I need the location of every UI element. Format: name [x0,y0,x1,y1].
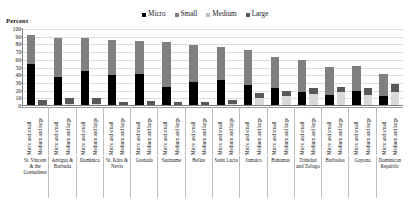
legend-item-small: Small [175,11,198,18]
bar-segment-small [162,42,171,87]
bar-medium-and-large[interactable] [337,87,346,106]
bar-group [50,29,77,106]
chart-legend: Micro Small Medium Large [142,11,268,18]
bar-label-cell: Medium and large [91,107,100,155]
bar-medium-and-large[interactable] [364,88,373,106]
bar-group [240,29,267,106]
bar-label-group: Micro and smallMedium and large [349,107,376,155]
bar-label-micro-and-small: Micro and small [191,108,196,155]
bar-medium-and-large[interactable] [309,88,318,106]
bar-label-group: Micro and smallMedium and large [158,107,185,155]
bar-label-micro-and-small: Micro and small [245,108,250,155]
bar-segment-micro [189,82,198,106]
bar-group [132,29,159,106]
bar-label-medium-and-large: Medium and large [175,108,180,155]
bar-label-cell: Micro and small [52,107,61,155]
bar-segment-small [54,38,63,77]
bar-medium-and-large[interactable] [391,84,400,106]
bar-label-micro-and-small: Micro and small [81,108,86,155]
bar-label-medium-and-large: Medium and large [202,108,207,155]
bar-segment-micro [217,80,226,106]
bar-micro-and-small[interactable] [244,50,253,106]
bar-label-cell: Micro and small [25,107,34,155]
bar-label-cell: Micro and small [325,107,334,155]
legend-label-medium: Medium [212,11,236,18]
bar-label-micro-and-small: Micro and small [218,108,223,155]
bar-micro-and-small[interactable] [81,38,90,106]
bar-label-cell: Medium and large [200,107,209,155]
bar-label-medium-and-large: Medium and large [66,108,71,155]
bar-micro-and-small[interactable] [108,40,117,106]
bar-micro-and-small[interactable] [27,35,36,106]
bar-label-cell: Micro and small [189,107,198,155]
bar-label-micro-and-small: Micro and small [382,108,387,155]
y-tick-label: 30 [15,80,21,86]
bar-label-medium-and-large: Medium and large [257,108,262,155]
legend-swatch-small [175,13,179,17]
bar-group [77,29,104,106]
country-label: Belize [186,156,213,198]
bar-micro-and-small[interactable] [352,66,361,106]
bar-label-band: Micro and smallMedium and largeMicro and… [22,107,403,155]
bar-segment-micro [135,74,144,106]
bar-label-micro-and-small: Micro and small [354,108,359,155]
country-label: St. Vincent & the Grenadines [22,156,49,198]
bar-micro-and-small[interactable] [162,42,171,106]
bar-segment-small [271,57,280,88]
bar-micro-and-small[interactable] [325,67,334,106]
bar-micro-and-small[interactable] [54,38,63,106]
bar-label-medium-and-large: Medium and large [284,108,289,155]
bar-micro-and-small[interactable] [135,41,144,106]
country-label: Guyana [349,156,376,198]
bar-label-cell: Micro and small [353,107,362,155]
bar-segment-medium [391,84,400,92]
bar-group [23,29,50,106]
bar-label-micro-and-small: Micro and small [27,108,32,155]
country-label: Trinidad and Tobago [295,156,322,198]
bar-label-cell: Micro and small [107,107,116,155]
legend-label-micro: Micro [148,11,166,18]
country-label: Bahamas [268,156,295,198]
bar-micro-and-small[interactable] [379,74,388,106]
bar-segment-small [189,45,198,82]
bar-label-medium-and-large: Medium and large [366,108,371,155]
bar-micro-and-small[interactable] [298,60,307,106]
y-axis-title: Percent [6,17,28,24]
bar-micro-and-small[interactable] [271,57,280,106]
bar-label-cell: Micro and small [380,107,389,155]
y-tick-label: 60 [15,57,21,63]
bar-group [104,29,131,106]
bar-group [267,29,294,106]
bar-label-cell: Medium and large [309,107,318,155]
bar-label-cell: Micro and small [243,107,252,155]
y-tick-label: 100 [13,26,21,32]
bar-label-cell: Medium and large [64,107,73,155]
bar-segment-large [391,92,400,106]
bar-label-cell: Medium and large [391,107,400,155]
bar-label-medium-and-large: Medium and large [311,108,316,155]
bar-label-group: Micro and smallMedium and large [213,107,240,155]
country-label: Jamaica [240,156,267,198]
y-tick-label: 50 [15,65,21,71]
legend-item-micro: Micro [142,11,166,18]
bar-label-cell: Micro and small [134,107,143,155]
bar-label-medium-and-large: Medium and large [120,108,125,155]
bar-label-group: Micro and smallMedium and large [186,107,213,155]
bar-label-medium-and-large: Medium and large [93,108,98,155]
bar-label-micro-and-small: Micro and small [163,108,168,155]
bar-group [159,29,186,106]
bar-group [376,29,403,106]
bar-segment-small [217,47,226,80]
bar-label-micro-and-small: Micro and small [54,108,59,155]
bar-label-group: Micro and smallMedium and large [131,107,158,155]
bar-label-cell: Medium and large [173,107,182,155]
bar-segment-micro [81,71,90,106]
legend-item-medium: Medium [206,11,236,18]
bar-label-medium-and-large: Medium and large [229,108,234,155]
bar-medium-and-large[interactable] [282,91,291,106]
bar-micro-and-small[interactable] [217,47,226,106]
bar-group [294,29,321,106]
country-label: Dominica [77,156,104,198]
bar-micro-and-small[interactable] [189,45,198,106]
y-tick-label: 80 [15,41,21,47]
